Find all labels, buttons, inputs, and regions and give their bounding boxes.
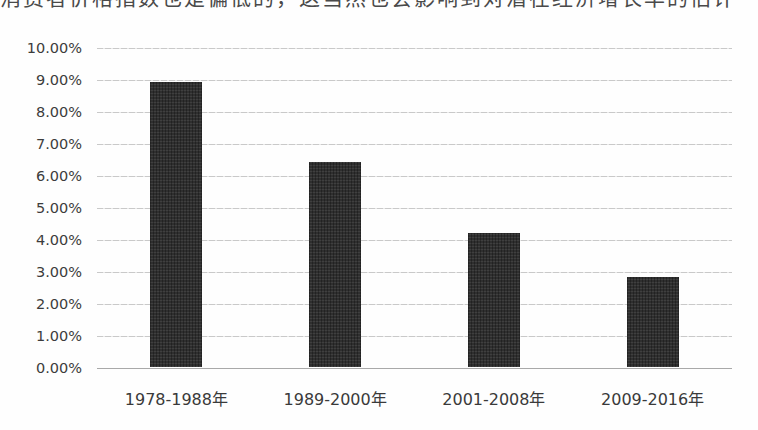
y-axis-tick-label: 0.00%	[2, 360, 82, 376]
y-axis-tick-label: 1.00%	[2, 328, 82, 344]
clipped-caption-text: 消费者价格指数也是偏低的，这当然也会影响到对潜在经济增长率的估计	[0, 0, 758, 10]
gridline	[97, 80, 732, 81]
x-axis-category-label: 1989-2000年	[255, 386, 415, 410]
x-axis-line	[97, 368, 732, 369]
scanned-page: 消费者价格指数也是偏低的，这当然也会影响到对潜在经济增长率的估计 10.00%9…	[0, 0, 758, 430]
y-axis-tick-label: 9.00%	[2, 72, 82, 88]
bar-1989-2000	[309, 162, 361, 367]
y-axis-tick-label: 8.00%	[2, 104, 82, 120]
y-axis-tick-label: 7.00%	[2, 136, 82, 152]
x-axis-category-label: 2009-2016年	[573, 386, 733, 410]
y-axis-tick-label: 5.00%	[2, 200, 82, 216]
clipped-caption: 消费者价格指数也是偏低的，这当然也会影响到对潜在经济增长率的估计	[0, 0, 758, 10]
bar-1978-1988	[150, 82, 202, 367]
plot-area	[97, 48, 732, 368]
gridline	[97, 48, 732, 49]
x-axis-category-label: 1978-1988年	[96, 386, 256, 410]
x-axis-category-label: 2001-2008年	[414, 386, 574, 410]
y-axis-tick-label: 2.00%	[2, 296, 82, 312]
y-axis-tick-label: 4.00%	[2, 232, 82, 248]
y-axis-tick-label: 10.00%	[2, 40, 82, 56]
bar-2009-2016	[627, 277, 679, 367]
y-axis-tick-label: 3.00%	[2, 264, 82, 280]
bar-chart: 10.00%9.00%8.00%7.00%6.00%5.00%4.00%3.00…	[0, 30, 758, 420]
y-axis-tick-label: 6.00%	[2, 168, 82, 184]
bar-2001-2008	[468, 233, 520, 367]
